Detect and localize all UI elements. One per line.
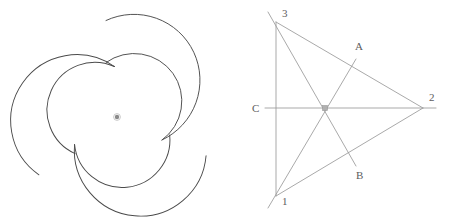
- pinwheel-arc-outer-2: [56, 96, 212, 220]
- vertex-label-1: 1: [282, 195, 288, 207]
- pinwheel-arc-inner-3: [30, 49, 143, 158]
- centroid-marker: [323, 106, 328, 111]
- cevian-3-to-B: [268, 12, 356, 166]
- triangle-sides: [276, 22, 423, 196]
- figure-pinwheel: [0, 0, 225, 220]
- ray-label-C: C: [252, 102, 259, 114]
- triangle-svg: 3 2 1 A B C: [225, 0, 451, 220]
- vertex-label-3: 3: [282, 7, 288, 19]
- pinwheel-outline: [7, 6, 218, 205]
- pinwheel-center-dot: [115, 115, 119, 119]
- cevian-1-to-A: [268, 59, 356, 208]
- vertex-label-2: 2: [429, 91, 435, 103]
- ray-label-B: B: [356, 169, 363, 181]
- pinwheel-svg: [0, 0, 225, 220]
- ray-label-A: A: [355, 40, 363, 52]
- side-1-2: [276, 108, 423, 196]
- figure-triangle: 3 2 1 A B C: [225, 0, 451, 220]
- figure-panel: 3 2 1 A B C: [0, 0, 451, 220]
- pinwheel-shape: [0, 14, 211, 220]
- triangle-cevians: [265, 12, 436, 208]
